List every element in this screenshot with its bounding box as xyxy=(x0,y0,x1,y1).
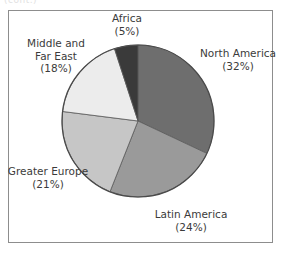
slice-label-north-america-name: North America xyxy=(200,47,276,60)
slice-label-north-america-percent: (32%) xyxy=(200,60,276,73)
slice-label-greater-europe: Greater Europe (21%) xyxy=(2,165,94,190)
slice-label-middle-far-east-name-line2: Far East xyxy=(18,50,94,63)
slice-label-north-america: North America (32%) xyxy=(200,47,276,72)
slice-label-greater-europe-name: Greater Europe xyxy=(2,165,94,178)
slice-label-middle-far-east-percent: (18%) xyxy=(18,62,94,75)
pie-chart-figure: (cont.) Africa (5%) North America (32%) … xyxy=(0,0,283,253)
slice-label-africa: Africa (5%) xyxy=(96,12,158,37)
slice-label-latin-america-name: Latin America xyxy=(146,208,236,221)
slice-label-africa-percent: (5%) xyxy=(96,25,158,38)
slice-label-greater-europe-percent: (21%) xyxy=(2,178,94,191)
slice-label-latin-america-percent: (24%) xyxy=(146,221,236,234)
slice-label-africa-name: Africa xyxy=(96,12,158,25)
slice-label-middle-far-east: Middle and Far East (18%) xyxy=(18,37,94,75)
slice-label-latin-america: Latin America (24%) xyxy=(146,208,236,233)
slice-label-middle-far-east-name-line1: Middle and xyxy=(18,37,94,50)
